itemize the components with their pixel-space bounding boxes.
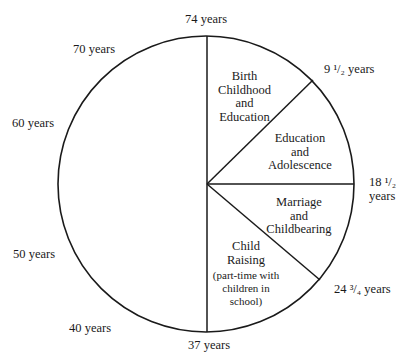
label-9-5-years: 9 ¹/₂ years bbox=[324, 62, 374, 76]
segment-birth-childhood-education: Birth Childhood and Education bbox=[212, 70, 277, 124]
segment-text-line: and bbox=[262, 210, 336, 224]
segment-child-raising: Child Raising bbox=[207, 240, 285, 267]
label-18-5-years-line2: years bbox=[369, 189, 395, 203]
segment-education-adolescence: Education and Adolescence bbox=[265, 132, 335, 173]
life-cycle-circle bbox=[0, 0, 413, 364]
label-50-years: 50 years bbox=[13, 247, 55, 261]
segment-text-line: Marriage bbox=[262, 196, 336, 210]
segment-text-line: Education bbox=[212, 111, 277, 125]
segment-text-line: Raising bbox=[207, 254, 285, 268]
segment-text-line: and bbox=[265, 146, 335, 160]
label-37-years: 37 years bbox=[188, 338, 230, 352]
segment-text-line: Education bbox=[265, 132, 335, 146]
segment-text-line: Birth bbox=[212, 70, 277, 84]
label-70-years: 70 years bbox=[73, 42, 115, 56]
label-60-years: 60 years bbox=[12, 116, 54, 130]
segment-text-line: children in bbox=[207, 282, 285, 295]
label-24-75-years: 24 ³/₄ years bbox=[334, 282, 391, 296]
segment-text-line: Adolescence bbox=[265, 159, 335, 173]
segment-text-line: Childbearing bbox=[262, 223, 336, 237]
segment-text-line: and bbox=[212, 97, 277, 111]
segment-text-line: Child bbox=[207, 240, 285, 254]
segment-marriage-childbearing: Marriage and Childbearing bbox=[262, 196, 336, 237]
segment-text-line: school) bbox=[207, 295, 285, 308]
segment-text-line: Childhood bbox=[212, 84, 277, 98]
label-74-years: 74 years bbox=[185, 12, 227, 26]
segment-text-line: (part-time with bbox=[207, 269, 285, 282]
label-18-5-years-line1: 18 ¹/₂ bbox=[369, 175, 396, 189]
segment-child-raising-note: (part-time with children in school) bbox=[207, 269, 285, 308]
label-40-years: 40 years bbox=[69, 321, 111, 335]
